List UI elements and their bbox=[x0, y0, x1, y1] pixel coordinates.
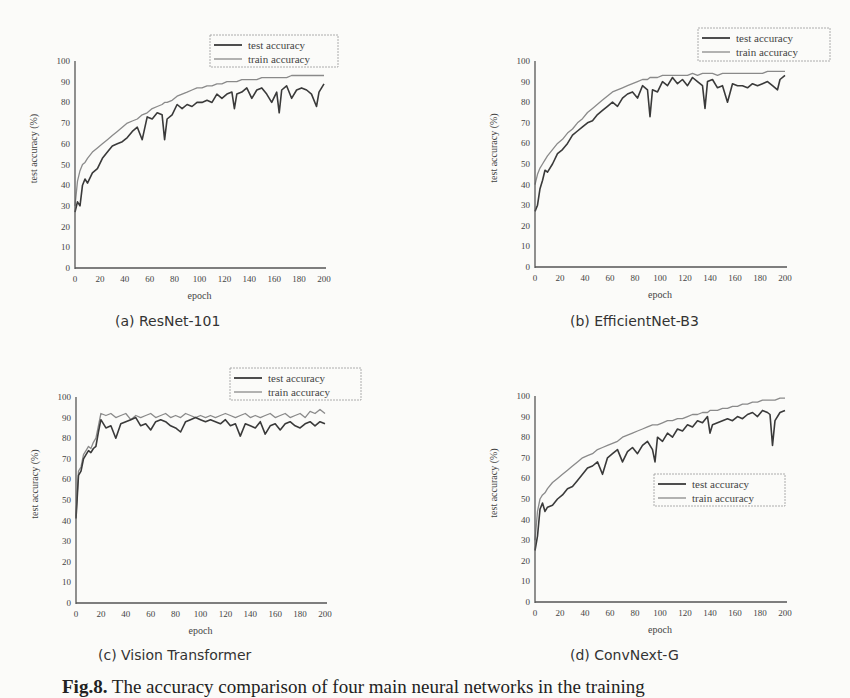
x-tick-label: 0 bbox=[533, 273, 538, 283]
y-tick-label: 0 bbox=[526, 597, 531, 607]
x-tick-label: 20 bbox=[556, 608, 566, 618]
x-tick-label: 60 bbox=[606, 608, 616, 618]
x-tick-label: 120 bbox=[678, 273, 692, 283]
x-tick-label: 120 bbox=[678, 608, 692, 618]
x-tick-label: 140 bbox=[703, 608, 717, 618]
caption-label: Fig.8. bbox=[62, 676, 107, 697]
x-tick-label: 100 bbox=[653, 608, 667, 618]
x-tick-label: 140 bbox=[703, 273, 717, 283]
y-axis-label: test accuracy (%) bbox=[488, 448, 500, 517]
chart-svg: 0102030405060708090100020406080100120140… bbox=[0, 0, 850, 330]
legend-label: test accuracy bbox=[692, 478, 750, 490]
y-tick-label: 100 bbox=[517, 391, 531, 401]
y-tick-label: 60 bbox=[521, 138, 531, 148]
y-tick-label: 70 bbox=[521, 453, 531, 463]
y-tick-label: 90 bbox=[521, 412, 531, 422]
x-axis-label: epoch bbox=[648, 624, 672, 635]
y-tick-label: 100 bbox=[517, 56, 531, 66]
x-tick-label: 200 bbox=[778, 273, 792, 283]
y-tick-label: 30 bbox=[521, 535, 531, 545]
x-tick-label: 40 bbox=[581, 273, 591, 283]
y-axis-label: test accuracy (%) bbox=[488, 113, 500, 182]
x-axis-label: epoch bbox=[648, 289, 672, 300]
x-tick-label: 100 bbox=[653, 273, 667, 283]
x-tick-label: 80 bbox=[631, 608, 641, 618]
legend-label: train accuracy bbox=[736, 46, 798, 58]
y-tick-label: 20 bbox=[521, 221, 531, 231]
figure-caption: Fig.8. The accuracy comparison of four m… bbox=[62, 676, 645, 698]
x-tick-label: 200 bbox=[778, 608, 792, 618]
x-tick-label: 60 bbox=[606, 273, 616, 283]
y-tick-label: 0 bbox=[526, 262, 531, 272]
legend: test accuracytrain accuracy bbox=[654, 474, 785, 506]
y-tick-label: 20 bbox=[521, 556, 531, 566]
x-tick-label: 180 bbox=[753, 608, 767, 618]
x-tick-label: 20 bbox=[556, 273, 566, 283]
x-tick-label: 40 bbox=[581, 608, 591, 618]
train-accuracy-line bbox=[535, 398, 785, 540]
chart-svg: 0102030405060708090100020406080100120140… bbox=[0, 320, 850, 650]
y-tick-label: 50 bbox=[521, 494, 531, 504]
y-tick-label: 30 bbox=[521, 200, 531, 210]
legend-label: train accuracy bbox=[692, 492, 754, 504]
x-tick-label: 160 bbox=[728, 273, 742, 283]
y-tick-label: 50 bbox=[521, 159, 531, 169]
chart-panel-b: 0102030405060708090100020406080100120140… bbox=[0, 0, 850, 330]
y-tick-label: 80 bbox=[521, 432, 531, 442]
x-tick-label: 160 bbox=[728, 608, 742, 618]
chart-panel-d: 0102030405060708090100020406080100120140… bbox=[0, 320, 850, 650]
y-tick-label: 90 bbox=[521, 77, 531, 87]
y-tick-label: 10 bbox=[521, 576, 531, 586]
subfigure-label-d: (d) ConvNext-G bbox=[570, 647, 679, 663]
test-accuracy-line bbox=[535, 75, 785, 211]
legend: test accuracytrain accuracy bbox=[698, 28, 830, 61]
y-tick-label: 40 bbox=[521, 180, 531, 190]
y-tick-label: 70 bbox=[521, 118, 531, 128]
x-tick-label: 180 bbox=[753, 273, 767, 283]
caption-text: The accuracy comparison of four main neu… bbox=[112, 676, 645, 697]
x-tick-label: 80 bbox=[631, 273, 641, 283]
legend-label: test accuracy bbox=[736, 32, 794, 44]
y-tick-label: 60 bbox=[521, 473, 531, 483]
y-tick-label: 10 bbox=[521, 241, 531, 251]
y-tick-label: 80 bbox=[521, 97, 531, 107]
y-tick-label: 40 bbox=[521, 515, 531, 525]
x-tick-label: 0 bbox=[533, 608, 538, 618]
